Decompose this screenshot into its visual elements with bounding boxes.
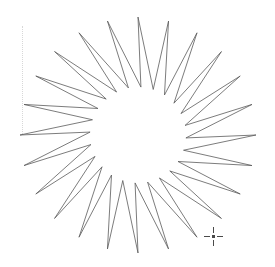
drawing-canvas[interactable] xyxy=(0,0,275,267)
star-shape-path[interactable] xyxy=(20,17,256,253)
starburst-polygon[interactable] xyxy=(0,0,275,267)
vertical-guide-line xyxy=(22,26,23,134)
